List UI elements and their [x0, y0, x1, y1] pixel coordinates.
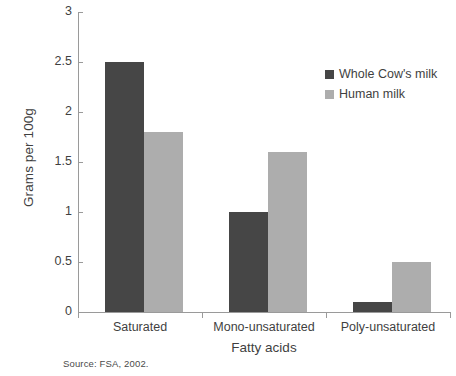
- bar: [353, 302, 392, 312]
- y-axis-tick-label: 2: [32, 105, 72, 118]
- legend-item-label: Whole Cow's milk: [339, 68, 437, 81]
- bar: [229, 212, 268, 312]
- source-note: Source: FSA, 2002.: [63, 358, 149, 369]
- y-axis-tick-label: 3: [32, 5, 72, 18]
- legend-swatch-icon: [325, 90, 334, 99]
- bar-chart-figure: Grams per 100g 00.511.522.53 SaturatedMo…: [0, 0, 456, 376]
- y-axis-tick-mark: [78, 62, 83, 63]
- y-axis-tick-mark: [78, 162, 83, 163]
- x-axis-tick-mark: [450, 312, 451, 318]
- y-axis-tick-mark: [78, 12, 83, 13]
- y-axis-tick-mark: [78, 112, 83, 113]
- y-axis-tick-label: 1: [32, 205, 72, 218]
- y-axis-tick-label: 0.5: [32, 255, 72, 268]
- y-axis-tick-mark: [78, 262, 83, 263]
- x-axis-category-label: Poly-unsaturated: [326, 320, 450, 335]
- x-axis-category-label: Mono-unsaturated: [202, 320, 326, 335]
- y-axis-tick-label: 1.5: [32, 155, 72, 168]
- bar: [392, 262, 431, 312]
- y-axis-tick-mark: [78, 212, 83, 213]
- chart-legend: Whole Cow's milk Human milk: [325, 64, 437, 104]
- y-axis-tick-label: 2.5: [32, 55, 72, 68]
- bar: [105, 62, 144, 312]
- legend-item-human-milk[interactable]: Human milk: [325, 84, 437, 104]
- x-axis-tick-mark: [326, 312, 327, 318]
- legend-item-whole-cows-milk[interactable]: Whole Cow's milk: [325, 64, 437, 84]
- legend-swatch-icon: [325, 70, 334, 79]
- legend-item-label: Human milk: [339, 88, 405, 101]
- bar: [268, 152, 307, 312]
- y-axis-tick-label: 0: [32, 305, 72, 318]
- x-axis-tick-mark: [202, 312, 203, 318]
- x-axis-line: [78, 312, 450, 313]
- x-axis-title: Fatty acids: [78, 340, 450, 355]
- bar: [144, 132, 183, 312]
- x-axis-tick-mark: [78, 312, 79, 318]
- x-axis-category-label: Saturated: [78, 320, 202, 335]
